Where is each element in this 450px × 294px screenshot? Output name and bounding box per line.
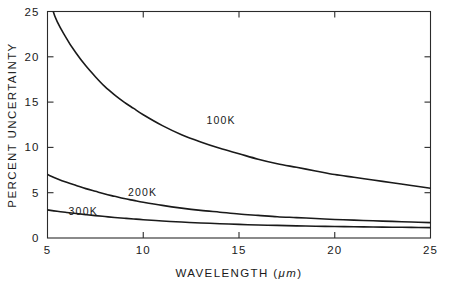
figure-container: 510152025 0510152025 100K200K300K WAVELE… [0, 0, 450, 294]
y-tick-label: 0 [32, 232, 40, 244]
x-axis-ticks [143, 12, 335, 239]
x-tick-label: 25 [423, 244, 438, 256]
plot-frame [48, 12, 431, 239]
y-axis-title: PERCENT UNCERTAINTY [6, 42, 18, 207]
y-tick-label: 20 [25, 51, 40, 63]
curve-200K [48, 175, 431, 223]
x-axis-title-close: ) [297, 267, 302, 279]
y-tick-label: 15 [25, 96, 40, 108]
x-axis-title-unit: μm [278, 267, 298, 279]
y-axis-tick-labels: 0510152025 [25, 6, 40, 245]
curve-label-300K: 300K [69, 205, 98, 217]
curve-300K [48, 210, 431, 228]
curve-100K [48, 0, 431, 188]
x-tick-label: 20 [327, 244, 342, 256]
x-tick-label: 10 [136, 244, 151, 256]
x-tick-label: 15 [232, 244, 247, 256]
y-tick-label: 25 [25, 6, 40, 18]
x-axis-title-main: WAVELENGTH ( [176, 267, 279, 279]
curve-label-100K: 100K [206, 114, 235, 126]
y-axis-ticks [48, 57, 431, 193]
x-tick-label: 5 [44, 244, 52, 256]
x-axis-tick-labels: 510152025 [44, 244, 438, 256]
data-curves [48, 0, 431, 228]
curve-label-200K: 200K [128, 186, 157, 198]
chart-plot: 510152025 0510152025 100K200K300K WAVELE… [0, 0, 450, 294]
y-tick-label: 10 [25, 141, 40, 153]
curve-series-labels: 100K200K300K [69, 114, 236, 217]
x-axis-title: WAVELENGTH (μm) [176, 267, 303, 279]
y-tick-label: 5 [32, 187, 40, 199]
